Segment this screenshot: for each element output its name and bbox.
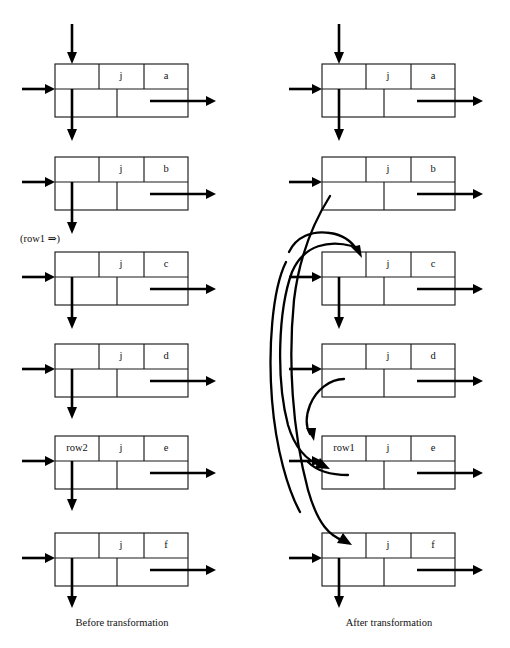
- column-after: j a: [271, 24, 483, 628]
- cell-mid-label: j: [386, 539, 390, 550]
- figure-canvas: j a: [0, 0, 510, 648]
- cell-right-label: e: [431, 442, 436, 453]
- node-before-a: j a: [22, 24, 216, 141]
- arrow-right-out: [150, 96, 216, 106]
- arrow-left-in: [22, 456, 55, 466]
- cell-mid-label: j: [119, 539, 123, 550]
- arrow-left-in: [289, 84, 322, 94]
- cell-mid-label: j: [119, 163, 123, 174]
- arrow-bottom-out: [67, 461, 77, 511]
- cell-right-label: a: [431, 70, 436, 81]
- arrow-bottom-out: [67, 558, 77, 608]
- arrow-right-out: [150, 565, 216, 575]
- node-after-a: j a: [289, 24, 483, 141]
- arrow-right-out: [417, 565, 483, 575]
- arrow-bottom-out: [67, 182, 77, 234]
- cell-right-label: b: [163, 163, 168, 174]
- arrow-left-in: [22, 272, 55, 282]
- arrow-right-out: [417, 468, 483, 478]
- transformation-diagram: j a: [0, 0, 510, 648]
- cell-mid-label: j: [119, 350, 123, 361]
- cell-mid-label: j: [386, 350, 390, 361]
- arrow-left-in: [289, 553, 322, 563]
- caption-before: Before transformation: [75, 617, 169, 628]
- arrow-top-in: [334, 24, 344, 64]
- arrow-bottom-out: [67, 369, 77, 419]
- curve-d-to-e: [306, 379, 344, 441]
- arrow-right-out: [150, 376, 216, 386]
- caption-after: After transformation: [346, 617, 433, 628]
- cell-mid-label: j: [119, 70, 123, 81]
- node-after-d: j d: [289, 344, 483, 397]
- arrow-left-in: [22, 364, 55, 374]
- node-before-f: j f: [22, 533, 216, 608]
- column-before: j a: [20, 24, 216, 628]
- arrow-bottom-out: [67, 277, 77, 329]
- arrow-left-in: [22, 177, 55, 187]
- arrow-right-out: [150, 284, 216, 294]
- cell-mid-label: j: [386, 258, 390, 269]
- arrow-left-in: [289, 272, 322, 282]
- arrow-right-out: [417, 96, 483, 106]
- node-before-e: row2 j e: [22, 436, 216, 511]
- cell-mid-label: j: [386, 163, 390, 174]
- node-after-f: j f: [289, 533, 483, 608]
- cell-mid-label: j: [386, 70, 390, 81]
- cell-right-label: c: [164, 258, 169, 269]
- cell-right-label: e: [164, 442, 169, 453]
- arrow-bottom-out: [334, 89, 344, 141]
- arrow-right-out: [417, 376, 483, 386]
- cell-right-label: a: [164, 70, 169, 81]
- cell-right-label: d: [430, 350, 436, 361]
- arrow-bottom-out: [334, 558, 344, 608]
- arrow-right-out: [150, 189, 216, 199]
- cell-mid-label: j: [386, 442, 390, 453]
- cell-right-label: d: [163, 350, 169, 361]
- arrow-left-in: [289, 177, 322, 187]
- arrow-bottom-out: [67, 89, 77, 141]
- arrow-left-in: [22, 84, 55, 94]
- cell-mid-label: j: [119, 258, 123, 269]
- arrow-left-in: [289, 364, 322, 374]
- cell-left-label: row2: [66, 442, 88, 453]
- arrow-left-in: [22, 553, 55, 563]
- node-before-d: j d: [22, 344, 216, 419]
- node-after-c: j c: [289, 252, 483, 329]
- arrow-right-out: [150, 468, 216, 478]
- node-before-c: j c: [22, 252, 216, 329]
- cell-right-label: b: [430, 163, 435, 174]
- arrow-right-out: [417, 189, 483, 199]
- arrow-top-in: [67, 24, 77, 64]
- arrow-bottom-out: [334, 277, 344, 329]
- cell-right-label: f: [431, 539, 435, 550]
- arrow-right-out: [417, 284, 483, 294]
- node-after-b: j b: [289, 157, 483, 210]
- row1-pointer-annotation: (row1 ⇒): [20, 233, 60, 245]
- cell-left-label: row1: [333, 442, 355, 453]
- cell-right-label: f: [164, 539, 168, 550]
- cell-mid-label: j: [119, 442, 123, 453]
- cell-right-label: c: [431, 258, 436, 269]
- node-before-b: j b: [22, 157, 216, 234]
